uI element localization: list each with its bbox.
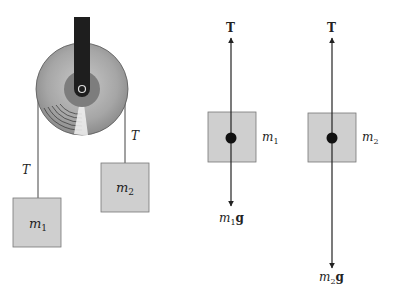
- tension-vector-label-m1: T: [226, 21, 235, 35]
- tension-vector-label-m2: T: [327, 21, 336, 35]
- atwood-machine-diagram: T T m1 m2 T m1 m1g T m2 m2g: [0, 0, 394, 295]
- center-of-mass-dot-m1: [226, 133, 237, 144]
- free-body-diagram-m1: T m1 m1g: [208, 21, 278, 227]
- pulley-bar-end: [74, 81, 90, 97]
- weight-label-m2: m2g: [319, 270, 344, 286]
- center-of-mass-dot-m2: [327, 133, 338, 144]
- pulley-support-bar: [74, 17, 90, 89]
- tension-label-left: T: [22, 163, 31, 177]
- fbd-mass-label-m2: m2: [362, 130, 378, 146]
- tension-label-right: T: [131, 129, 140, 143]
- fbd-mass-label-m1: m1: [262, 130, 278, 146]
- weight-label-m1: m1g: [219, 211, 244, 227]
- free-body-diagram-m2: T m2 m2g: [308, 21, 378, 286]
- pulley-system: T T m1 m2: [13, 17, 149, 247]
